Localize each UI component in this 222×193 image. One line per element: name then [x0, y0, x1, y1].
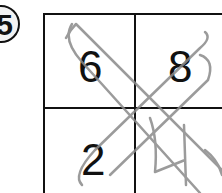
pencil-loop-1b — [66, 24, 222, 170]
pencil-loop-2 — [79, 32, 208, 185]
pencil-strokes — [0, 0, 222, 193]
